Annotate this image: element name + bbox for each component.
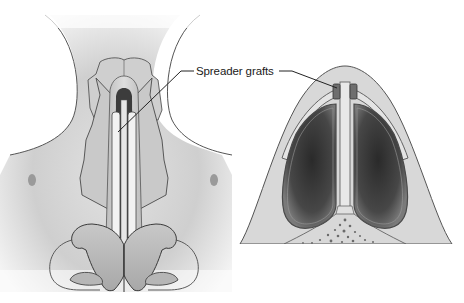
figure: Spreader grafts — [0, 0, 464, 303]
spreader-grafts-label: Spreader grafts — [196, 64, 274, 78]
cross-section-panel — [232, 66, 464, 303]
frontal-view-panel — [0, 0, 232, 303]
spreader-graft-left-cross-section — [333, 84, 340, 99]
spreader-graft-right-cross-section — [350, 84, 357, 99]
septum-center — [121, 100, 127, 246]
spreader-graft-left-frontal — [112, 112, 120, 246]
spreader-graft-right-frontal — [128, 112, 136, 246]
septum-cross-section — [340, 82, 350, 212]
illustration — [0, 0, 464, 303]
right-orbit-curve — [167, 15, 232, 155]
